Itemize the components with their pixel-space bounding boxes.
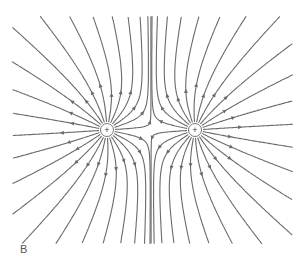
positive-charge-left: +: [100, 123, 114, 137]
arrow-icon: [170, 165, 174, 169]
positive-charge-right: +: [188, 123, 202, 137]
field-line: [22, 137, 103, 243]
field-line: [196, 138, 233, 244]
field-line: [203, 101, 293, 128]
field-line: [103, 138, 116, 244]
field-line: [160, 134, 188, 243]
arrow-icon: [114, 167, 118, 171]
field-line: [197, 16, 247, 122]
field-line: [180, 137, 191, 244]
field-line: [56, 138, 106, 244]
arrow-icon: [97, 162, 101, 166]
arrow-icon: [128, 90, 132, 94]
arrow-icon: [201, 94, 205, 98]
field-line: [13, 27, 103, 123]
field-line: [202, 75, 293, 126]
field-line: [114, 17, 142, 126]
arrow-icon: [238, 125, 242, 129]
arrow-icon: [194, 83, 198, 87]
field-line: [70, 16, 107, 122]
charge-symbol: +: [192, 125, 197, 135]
field-line: [93, 17, 111, 122]
field-lines: [0, 0, 305, 261]
arrow-icon: [104, 173, 108, 177]
arrow-icon: [184, 89, 188, 93]
field-line: [203, 132, 293, 148]
arrow-icon: [228, 134, 232, 138]
arrow-icon: [189, 163, 193, 167]
field-line: [13, 134, 101, 183]
field-line: [113, 135, 138, 243]
field-line: [186, 17, 199, 123]
field-line: [191, 138, 209, 243]
field-line: [199, 137, 292, 235]
field-line: [164, 17, 189, 125]
field-line: [13, 131, 99, 136]
field-line: [203, 124, 293, 129]
field-line: [199, 17, 280, 123]
arrow-icon: [70, 122, 74, 126]
panel-label: B: [20, 243, 27, 255]
field-line: [200, 44, 292, 124]
charge-symbol: +: [104, 125, 109, 135]
field-line: [13, 113, 99, 128]
field-line: [13, 133, 99, 159]
field-line: [13, 136, 102, 214]
arrow-icon: [60, 131, 64, 135]
arrow-icon: [109, 93, 113, 97]
field-line: [111, 16, 122, 123]
